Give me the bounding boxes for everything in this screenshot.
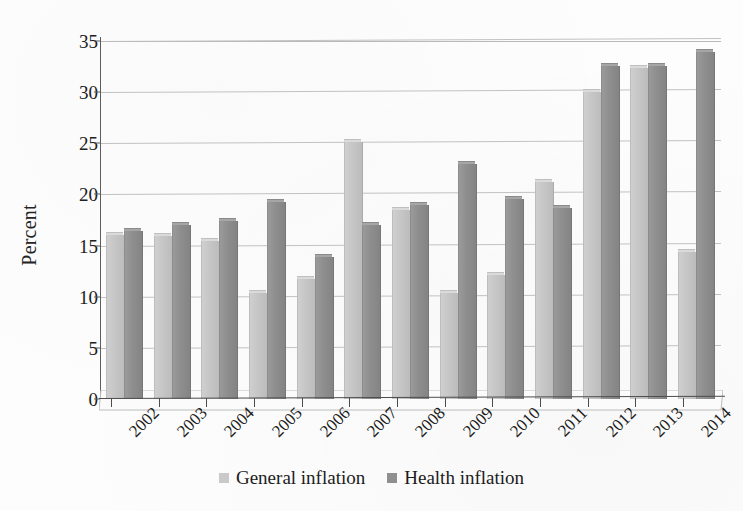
bar-face — [172, 225, 191, 399]
bar-group — [106, 41, 142, 399]
bar-face — [601, 66, 620, 399]
bar-general-inflation[interactable] — [440, 293, 457, 399]
legend-item[interactable]: Health inflation — [387, 468, 524, 487]
bar-group — [249, 41, 285, 399]
bar-group — [392, 41, 428, 399]
x-axis-tick-label: 2014 — [698, 404, 734, 440]
legend-label: Health inflation — [404, 468, 524, 487]
bar-group — [630, 41, 666, 399]
y-axis-title: Percent — [18, 175, 41, 295]
bar-face — [648, 66, 667, 399]
y-axis-tickmark — [94, 347, 101, 348]
legend-swatch-icon — [387, 473, 397, 483]
y-axis-tickmark — [94, 245, 101, 246]
bar-face — [535, 182, 554, 399]
bar-group — [201, 41, 237, 399]
y-axis-tickmark — [94, 296, 101, 297]
x-axis-tick-label: 2010 — [507, 404, 543, 440]
y-axis-tickmark — [94, 143, 101, 144]
plot-area — [101, 41, 721, 399]
bar-health-inflation[interactable] — [315, 257, 332, 399]
bar-face — [124, 231, 143, 399]
bar-face — [362, 225, 381, 399]
bar-general-inflation[interactable] — [583, 92, 600, 399]
bar-group — [344, 41, 380, 399]
y-axis-tick-label: 30 — [56, 83, 98, 102]
bar-health-inflation[interactable] — [410, 205, 427, 399]
legend-label: General inflation — [236, 468, 365, 487]
y-axis-tick-label: 10 — [56, 287, 98, 306]
x-axis-tick-labels: 2002200320042005200620072008200920102011… — [0, 404, 743, 464]
bar-group — [297, 41, 333, 399]
legend-swatch-icon — [219, 473, 229, 483]
bar-general-inflation[interactable] — [487, 275, 504, 399]
chart-figure: Percent 05101520253035 20022003200420052… — [0, 0, 743, 511]
bar-face — [106, 235, 125, 399]
bar-group — [535, 41, 571, 399]
bar-face — [630, 68, 649, 399]
bar-face — [219, 221, 238, 399]
y-axis-tickmark — [94, 41, 101, 42]
bar-group — [154, 41, 190, 399]
y-axis-tick-label: 5 — [56, 338, 98, 357]
y-axis-tickmark — [94, 92, 101, 93]
bar-health-inflation[interactable] — [553, 208, 570, 399]
bar-face — [458, 164, 477, 399]
bar-group — [487, 41, 523, 399]
x-axis-tick-label: 2004 — [221, 404, 257, 440]
bar-general-inflation[interactable] — [106, 235, 123, 399]
bar-group — [583, 41, 619, 399]
bar-general-inflation[interactable] — [392, 210, 409, 399]
bar-face — [154, 236, 173, 399]
bar-health-inflation[interactable] — [696, 52, 713, 399]
bar-group — [440, 41, 476, 399]
x-axis-tick-label: 2009 — [460, 404, 496, 440]
bar-face — [553, 208, 572, 399]
bar-health-inflation[interactable] — [648, 66, 665, 399]
bar-face — [410, 205, 429, 399]
legend-item[interactable]: General inflation — [219, 468, 365, 487]
x-axis-tick-label: 2005 — [269, 404, 305, 440]
bar-face — [696, 52, 715, 399]
bar-face — [344, 142, 363, 399]
bar-face — [440, 293, 459, 399]
bar-general-inflation[interactable] — [297, 279, 314, 399]
bar-series-container — [101, 41, 721, 399]
bar-general-inflation[interactable] — [201, 241, 218, 399]
bar-health-inflation[interactable] — [458, 164, 475, 399]
bar-face — [678, 252, 697, 399]
bar-general-inflation[interactable] — [678, 252, 695, 399]
bar-face — [583, 92, 602, 399]
y-axis-tick-labels: 05101520253035 — [56, 30, 98, 410]
bar-face — [267, 202, 286, 399]
bar-general-inflation[interactable] — [249, 293, 266, 399]
x-axis-tick-label: 2013 — [650, 404, 686, 440]
bar-face — [505, 199, 524, 399]
chart-legend: General inflationHealth inflation — [0, 468, 743, 487]
bar-group — [678, 41, 714, 399]
bar-health-inflation[interactable] — [124, 231, 141, 399]
y-axis-tick-label: 15 — [56, 236, 98, 255]
bar-health-inflation[interactable] — [219, 221, 236, 399]
bar-health-inflation[interactable] — [172, 225, 189, 399]
bar-face — [249, 293, 268, 399]
bar-face — [201, 241, 220, 399]
x-axis-tick-label: 2002 — [126, 404, 162, 440]
bar-health-inflation[interactable] — [267, 202, 284, 399]
bar-health-inflation[interactable] — [505, 199, 522, 399]
x-axis-tick-label: 2008 — [412, 404, 448, 440]
y-axis-tick-label: 25 — [56, 134, 98, 153]
x-axis-tick-label: 2012 — [603, 404, 639, 440]
bar-health-inflation[interactable] — [601, 66, 618, 399]
y-axis-tick-label: 35 — [56, 32, 98, 51]
bar-general-inflation[interactable] — [630, 68, 647, 399]
bar-general-inflation[interactable] — [535, 182, 552, 399]
y-axis-tick-label: 20 — [56, 185, 98, 204]
bar-health-inflation[interactable] — [362, 225, 379, 399]
bar-general-inflation[interactable] — [344, 142, 361, 399]
x-axis-tick-label: 2011 — [555, 404, 591, 440]
x-axis-tick-label: 2003 — [173, 404, 209, 440]
bar-general-inflation[interactable] — [154, 236, 171, 399]
bar-face — [392, 210, 411, 399]
x-axis-tick-label: 2007 — [364, 404, 400, 440]
